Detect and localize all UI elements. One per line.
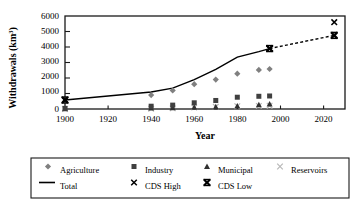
y-tick-0: 0 — [55, 104, 60, 114]
x-tick-2000: 2000 — [272, 114, 291, 124]
legend-marker-cds-high — [131, 180, 137, 186]
y-tick-6000: 6000 — [41, 11, 60, 21]
legend-marker-industry — [132, 164, 137, 169]
withdrawals-chart: Withdrawals (km3) 6000 5000 4000 3000 20… — [0, 0, 357, 204]
legend-label-industry: Industry — [145, 165, 174, 175]
y-tick-5000: 5000 — [41, 26, 60, 36]
y-axis-title: Withdrawals (km3) — [7, 27, 19, 109]
x-tick-1940: 1940 — [142, 114, 161, 124]
series-agriculture-points — [62, 66, 273, 104]
y-tick-4000: 4000 — [41, 41, 60, 51]
legend-label-reservoirs: Reservoirs — [291, 165, 327, 175]
x-tick-2020: 2020 — [315, 114, 334, 124]
series-industry-points — [63, 93, 273, 110]
legend-label-municipal: Municipal — [218, 165, 254, 175]
legend-label-agriculture: Agriculture — [60, 165, 99, 175]
legend-marker-municipal — [204, 164, 210, 170]
x-tick-1980: 1980 — [228, 114, 247, 124]
series-projection-line — [270, 35, 335, 48]
x-tick-labels: 1900 1920 1940 1960 1980 2000 2020 — [56, 114, 333, 124]
series-municipal-points — [62, 101, 273, 111]
series-cdshigh-points — [62, 19, 337, 102]
y-tick-1000: 1000 — [41, 86, 60, 96]
legend-label-cds-low: CDS Low — [218, 181, 253, 191]
x-axis-title: Year — [195, 130, 216, 141]
x-tick-1920: 1920 — [99, 114, 118, 124]
plot-frame — [65, 16, 345, 109]
series-reservoirs-points — [62, 103, 272, 112]
legend-marker-agriculture — [45, 163, 51, 169]
legend-marker-cds-low — [203, 180, 210, 186]
x-tick-1960: 1960 — [185, 114, 204, 124]
legend-box — [31, 158, 349, 198]
legend-marker-reservoirs — [277, 164, 283, 170]
legend-label-total: Total — [60, 181, 78, 191]
y-tick-3000: 3000 — [41, 56, 60, 66]
chart-figure: Withdrawals (km3) 6000 5000 4000 3000 20… — [0, 0, 357, 204]
y-tick-labels: 6000 5000 4000 3000 2000 1000 0 — [41, 11, 60, 114]
x-tick-1900: 1900 — [56, 114, 75, 124]
y-tick-2000: 2000 — [41, 71, 60, 81]
y-axis-ticks — [65, 32, 70, 94]
legend-label-cds-high: CDS High — [145, 181, 181, 191]
